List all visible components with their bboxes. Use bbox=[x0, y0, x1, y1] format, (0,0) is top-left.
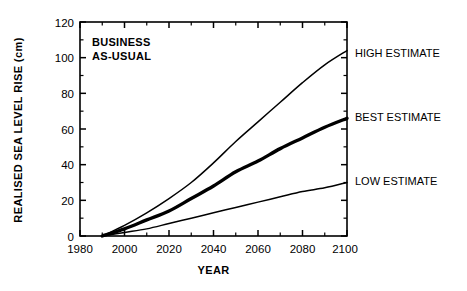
series-label-low-estimate: LOW ESTIMATE bbox=[355, 175, 437, 187]
x-tick-label-2020: 2020 bbox=[156, 243, 182, 255]
x-tick-label-1980: 1980 bbox=[67, 243, 93, 255]
x-tick-label-2100: 2100 bbox=[332, 243, 358, 255]
y-tick-label-20: 20 bbox=[61, 195, 74, 207]
x-axis-title: YEAR bbox=[197, 264, 229, 276]
y-tick-label-100: 100 bbox=[55, 52, 74, 64]
x-tick-label-2040: 2040 bbox=[201, 243, 227, 255]
sea-level-rise-chart: REALISED SEA LEVEL RISE (cm) 120 100 80 … bbox=[0, 0, 467, 291]
x-tick-label-2000: 2000 bbox=[112, 243, 138, 255]
annotation-line-1: BUSINESS bbox=[92, 36, 151, 48]
y-tick-label-60: 60 bbox=[61, 124, 74, 136]
x-tick-label-2060: 2060 bbox=[245, 243, 271, 255]
y-tick-label-0: 0 bbox=[68, 231, 74, 243]
annotation-line-2: AS-USUAL bbox=[92, 50, 151, 62]
y-tick-label-120: 120 bbox=[55, 17, 74, 29]
series-label-best-estimate: BEST ESTIMATE bbox=[355, 111, 441, 123]
series-label-high-estimate: HIGH ESTIMATE bbox=[355, 47, 440, 59]
x-tick-label-2080: 2080 bbox=[290, 243, 316, 255]
y-tick-label-80: 80 bbox=[61, 88, 74, 100]
y-axis-title: REALISED SEA LEVEL RISE (cm) bbox=[12, 37, 24, 222]
y-tick-label-40: 40 bbox=[61, 159, 74, 171]
